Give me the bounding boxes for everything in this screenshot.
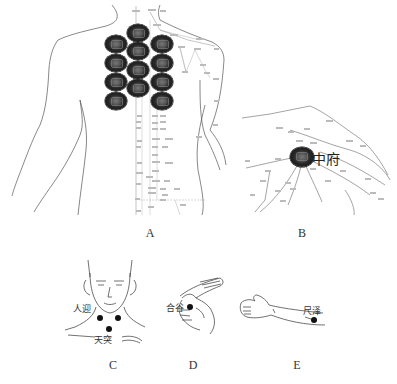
- moxa-disc: [105, 73, 127, 91]
- acupoint-label-chize: 尺泽: [303, 304, 321, 317]
- acupoint-dot-chize: [311, 317, 317, 323]
- moxa-disc: [151, 35, 173, 53]
- acupoint-dot-tiantu: [106, 326, 112, 332]
- acupoint-label-renying: 人迎: [73, 302, 91, 315]
- panel-letter-c: C: [109, 358, 117, 373]
- acupoint-dot-hegu: [187, 304, 193, 310]
- moxa-disc: [127, 79, 149, 97]
- acupoint-label-zhongfu: 中府: [312, 148, 340, 168]
- panel-letter-b: B: [298, 226, 306, 241]
- acupoint-label-tiantu: 天突: [94, 333, 112, 346]
- moxa-disc-zhongfu: [290, 147, 314, 167]
- panel-c-neck: 人迎 天突: [60, 255, 145, 345]
- moxa-disc: [127, 24, 149, 42]
- panel-e-forearm: 尺泽: [235, 285, 335, 340]
- panel-a-back-meridian: [0, 0, 230, 225]
- acupoint-dot-renying-left: [97, 315, 103, 321]
- moxa-disc: [151, 73, 173, 91]
- moxa-disc: [127, 61, 149, 79]
- panel-b-chest-meridian: 中府: [230, 100, 397, 225]
- panel-letter-a: A: [146, 226, 155, 241]
- panel-d-hand: 合谷: [160, 270, 230, 340]
- acupoint-dot-renying-right: [115, 315, 121, 321]
- moxa-disc: [151, 54, 173, 72]
- acupoint-label-hegu: 合谷: [166, 301, 184, 314]
- face-neck-drawing: [60, 255, 145, 345]
- moxa-disc: [127, 42, 149, 60]
- panel-letter-d: D: [189, 358, 198, 373]
- moxa-disc: [151, 92, 173, 110]
- moxa-disc: [105, 92, 127, 110]
- moxa-disc: [105, 35, 127, 53]
- body-outline-back: [0, 0, 230, 225]
- panel-letter-e: E: [293, 358, 300, 373]
- moxa-disc: [105, 54, 127, 72]
